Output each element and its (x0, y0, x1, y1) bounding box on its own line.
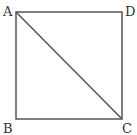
square-diagram: A D B C (0, 0, 137, 135)
vertex-label-c: C (122, 121, 132, 135)
diagonal-ac (16, 12, 122, 119)
vertex-label-b: B (3, 121, 13, 135)
vertex-label-a: A (2, 4, 13, 19)
vertex-label-d: D (125, 4, 135, 19)
